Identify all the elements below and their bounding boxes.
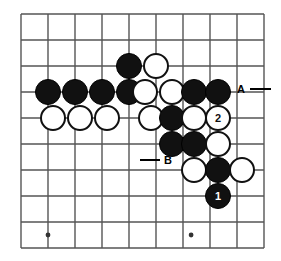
marker-layer: AB (0, 0, 281, 261)
point-label-b: B (164, 155, 172, 166)
point-leader-line-a (250, 88, 271, 90)
point-label-a: A (237, 84, 245, 95)
point-leader-line-b (140, 159, 160, 161)
go-board-diagram: 21 AB (0, 0, 281, 261)
